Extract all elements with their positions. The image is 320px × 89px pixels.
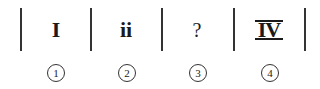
cell-1: I bbox=[21, 8, 91, 51]
divider-5 bbox=[304, 8, 306, 51]
circled-number-1: 1 bbox=[47, 64, 65, 82]
circled-number-4: 4 bbox=[261, 64, 279, 82]
symbol-3-question: ? bbox=[193, 20, 202, 40]
symbol-2: ii bbox=[120, 19, 132, 41]
cell-4: IV bbox=[234, 8, 304, 51]
cell-3: ? bbox=[162, 8, 232, 51]
symbol-1: I bbox=[52, 19, 61, 41]
circled-number-3: 3 bbox=[189, 64, 207, 82]
cell-2: ii bbox=[91, 8, 161, 51]
circled-number-2: 2 bbox=[118, 64, 136, 82]
symbol-4: IV bbox=[257, 19, 281, 41]
